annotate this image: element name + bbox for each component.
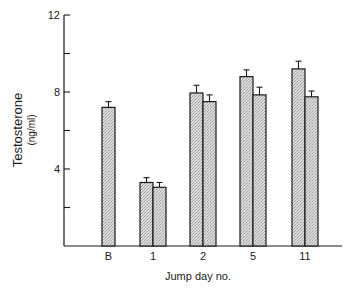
y-tick-label: 12 [48,9,60,21]
x-tick-label: 2 [200,250,206,262]
bar-group-1 [140,178,166,246]
bar-group-11 [292,61,318,246]
bar-group-2 [190,85,216,246]
y-axis: 4812 [48,9,70,246]
x-tick-label: B [105,250,112,262]
bars [102,61,318,246]
bar [102,107,115,246]
bar [253,95,266,246]
y-axis-unit: (ng/ml) [26,114,37,145]
x-tick-label: 5 [250,250,256,262]
x-tick-label: 1 [150,250,156,262]
bar-chart: 4812 B12511 Testosterone (ng/ml) Jump da… [0,0,352,290]
bar-group-B [102,102,115,246]
bar [190,93,203,246]
bar [140,182,153,246]
bar [305,97,318,246]
x-axis-label: Jump day no. [165,270,231,282]
x-axis: B12511 [64,246,342,262]
y-tick-label: 4 [54,163,60,175]
bar [240,77,253,246]
bar [292,69,305,246]
x-tick-label: 11 [299,250,310,262]
bar-group-5 [240,70,266,246]
bar [203,102,216,246]
y-tick-label: 8 [54,86,60,98]
bar [153,187,166,246]
y-axis-label: Testosterone [10,93,25,167]
